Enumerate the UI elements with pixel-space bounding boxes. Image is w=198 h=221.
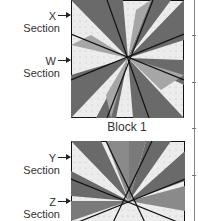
arrow-right-icon bbox=[58, 157, 70, 158]
rule-tick bbox=[192, 128, 196, 129]
rule-tick bbox=[192, 82, 196, 83]
block-1-caption: Block 1 bbox=[71, 120, 183, 134]
label-z-letter: Z bbox=[0, 196, 70, 208]
quilt-block-1 bbox=[71, 0, 184, 118]
label-z-section: Z Section bbox=[0, 196, 70, 220]
arrow-right-icon bbox=[58, 15, 70, 16]
label-w-word: Section bbox=[0, 67, 70, 79]
rule-tick bbox=[192, 175, 196, 176]
label-x-section: X Section bbox=[0, 10, 70, 34]
label-x-word: Section bbox=[0, 22, 70, 34]
label-y-section: Y Section bbox=[0, 152, 70, 176]
rule-tick bbox=[192, 35, 196, 36]
label-z-word: Section bbox=[0, 208, 70, 220]
label-w-letter: W bbox=[0, 55, 70, 67]
label-x-letter: X bbox=[0, 10, 70, 22]
label-y-letter: Y bbox=[0, 152, 70, 164]
page-edge-rule bbox=[194, 0, 195, 221]
arrow-right-icon bbox=[58, 201, 70, 202]
label-w-section: W Section bbox=[0, 55, 70, 79]
label-y-word: Section bbox=[0, 164, 70, 176]
arrow-right-icon bbox=[58, 60, 70, 61]
quilt-block-2 bbox=[71, 141, 185, 221]
